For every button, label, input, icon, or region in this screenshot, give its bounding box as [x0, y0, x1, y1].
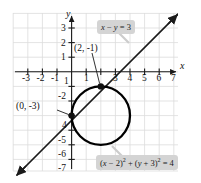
y-tick-label--7: -7 [58, 164, 66, 174]
y-tick-label-1: 1 [61, 53, 66, 63]
circle-eq-plus: + ( [126, 158, 138, 168]
y-tick-label--2: -2 [58, 92, 66, 102]
x-axis-label: x [180, 61, 184, 71]
line-arrow-upper [168, 15, 178, 25]
line-graph [16, 10, 182, 176]
graph-figure: x y -3 -2 -1 1 3 4 5 6 7 3 2 1 1 -2 4 -5… [0, 0, 201, 183]
intersection-point-upper [98, 83, 104, 89]
x-tick-label--2: -2 [37, 74, 45, 84]
line-eq-rhs: 3 [127, 22, 131, 32]
x-tick-label-6: 6 [157, 74, 162, 84]
x-tick-label--1: -1 [51, 74, 59, 84]
point-label-0-minus-3: (0, -3) [16, 102, 40, 112]
x-tick-label-7: 7 [171, 74, 176, 84]
y-axis [68, 16, 74, 169]
y-tick-label-2: 2 [61, 39, 66, 49]
x-tick-label-5: 5 [142, 74, 147, 84]
y-tick-label-3: 3 [61, 24, 66, 34]
point-label-2-minus-1: (2, -1) [74, 44, 98, 54]
leader-line-lower-point [57, 110, 69, 115]
circle-eq-plus3: + 3) [141, 158, 157, 168]
y-tick-label--5: -5 [58, 136, 66, 146]
x-tick-label-3: 3 [113, 74, 118, 84]
circle-equation-callout: (x − 2)2 + (y + 3)2 = 4 [96, 155, 178, 170]
line-eq-equals: = [118, 22, 127, 32]
intersection-point-lower [68, 112, 74, 118]
y-tick-label--6: -6 [58, 150, 66, 160]
y-tick-label--4: 4 [62, 121, 67, 131]
leader-line-line-callout [119, 33, 129, 43]
line-equation-callout: x − y = 3 [97, 20, 135, 34]
x-tick-label-1: 1 [84, 74, 89, 84]
grid-lines [13, 13, 178, 171]
circle-eq-equals4: = 4 [161, 158, 174, 168]
x-tick-label-4: 4 [128, 74, 133, 84]
circle-eq-minus2: − 2) [107, 158, 123, 168]
y-tick-label--1: 1 [64, 77, 69, 87]
line-eq-minus: − [105, 22, 114, 32]
y-axis-label: y [66, 9, 70, 19]
x-tick-label--3: -3 [22, 74, 30, 84]
